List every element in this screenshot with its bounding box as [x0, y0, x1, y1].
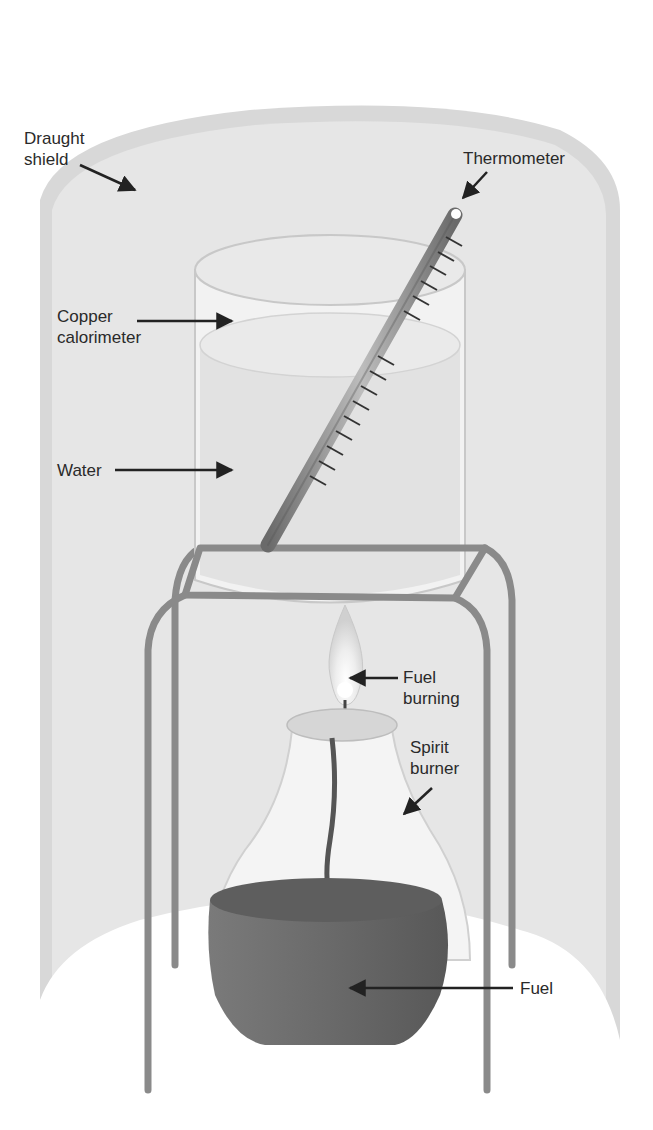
label-fuel-burning: Fuel burning	[403, 667, 460, 709]
label-spirit-burner: Spirit burner	[410, 737, 459, 779]
label-draught-shield: Draught shield	[24, 128, 84, 170]
apparatus-diagram	[0, 0, 653, 1130]
label-water: Water	[57, 460, 102, 481]
label-copper-calorimeter: Copper calorimeter	[57, 306, 141, 348]
label-fuel: Fuel	[520, 978, 553, 999]
label-thermometer: Thermometer	[463, 148, 565, 169]
